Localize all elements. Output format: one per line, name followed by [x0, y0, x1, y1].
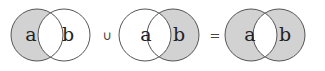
venn-equation: a b ∪ a b = a b [0, 0, 325, 71]
venn-panel-b-minus-a: a b [119, 9, 199, 61]
venn-panel-a-minus-b: a b [11, 9, 90, 61]
venn-panel-symmetric-difference: a b [225, 9, 305, 61]
label-a: a [25, 23, 36, 45]
union-operator: ∪ [102, 28, 112, 43]
label-b: b [173, 23, 185, 45]
label-b: b [279, 23, 291, 45]
label-a: a [244, 23, 255, 45]
equals-operator: = [210, 28, 221, 43]
label-b: b [62, 23, 74, 45]
label-a: a [140, 23, 151, 45]
